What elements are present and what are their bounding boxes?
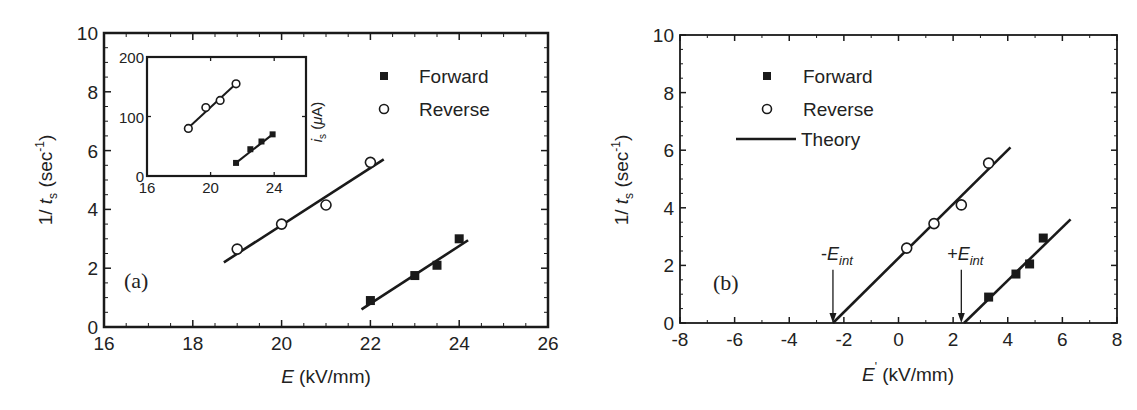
annotation-arrow-neg-eint: -Eint	[821, 244, 854, 323]
x-tick-label: -2	[835, 329, 852, 350]
y-tick-label: 6	[87, 141, 98, 162]
annotation-label: -Eint	[821, 244, 854, 268]
filled-square-marker	[410, 271, 419, 280]
x-axis-title: E (kV/mm)	[281, 366, 371, 387]
legend-label-reverse: Reverse	[803, 99, 874, 120]
filled-square-marker	[270, 131, 276, 137]
chart-panel-b: -8-6-4-20246802468101/ ts (sec-1)E' (kV/…	[609, 25, 1122, 385]
x-tick-label: -4	[781, 329, 798, 350]
open-circle-marker	[232, 80, 240, 88]
filled-square-marker	[763, 72, 771, 80]
y-axis-title: 1/ ts (sec-1)	[33, 135, 60, 226]
x-tick-label: 18	[182, 333, 203, 354]
legend: ForwardReverseTheory	[736, 66, 874, 150]
y-tick-label: 8	[87, 82, 98, 103]
figure: 16182022242602468101/ ts (sec-1)E (kV/mm…	[0, 0, 1137, 410]
y-tick-label: 10	[653, 25, 674, 46]
y-tick-label: 2	[87, 258, 98, 279]
inset-x-tick-label: 24	[266, 179, 283, 196]
legend-label-forward: Forward	[419, 66, 489, 87]
y-axis-title: 1/ ts (sec-1)	[609, 135, 636, 226]
inset-x-tick-label: 20	[202, 179, 219, 196]
open-circle-marker	[763, 105, 772, 114]
filled-square-marker	[247, 146, 253, 152]
inset-y-axis-title: is (μA)	[308, 102, 328, 143]
open-circle-marker	[232, 244, 242, 254]
inset-y-tick-label: 100	[119, 109, 144, 126]
x-tick-label: 2	[948, 329, 959, 350]
x-tick-label: 4	[1002, 329, 1013, 350]
open-circle-marker	[929, 219, 939, 229]
y-tick-label: 6	[663, 140, 674, 161]
filled-square-marker	[233, 160, 239, 166]
panel-label: (b)	[713, 270, 739, 295]
open-circle-marker	[277, 219, 287, 229]
x-tick-label: 26	[537, 333, 558, 354]
x-tick-label: -8	[672, 329, 689, 350]
open-circle-marker	[202, 104, 210, 112]
x-axis-title: E' (kV/mm)	[862, 360, 954, 385]
y-tick-label: 8	[663, 83, 674, 104]
inset-y-tick-label: 200	[119, 49, 144, 66]
filled-square-marker	[1011, 270, 1020, 279]
open-circle-marker	[956, 200, 966, 210]
y-tick-label: 2	[663, 255, 674, 276]
open-circle-marker	[365, 157, 375, 167]
plot-frame	[680, 35, 1117, 323]
open-circle-marker	[902, 243, 912, 253]
x-tick-label: 20	[271, 333, 292, 354]
y-tick-label: 4	[87, 199, 98, 220]
x-tick-label: 6	[1057, 329, 1068, 350]
open-circle-marker	[321, 200, 331, 210]
filled-square-marker	[366, 296, 375, 305]
filled-square-marker	[258, 138, 264, 144]
filled-square-marker	[455, 234, 464, 243]
x-tick-label: -6	[726, 329, 743, 350]
y-tick-label: 4	[663, 198, 674, 219]
filled-square-marker	[1039, 234, 1048, 243]
legend-label-theory: Theory	[801, 129, 861, 150]
x-tick-label: 24	[449, 333, 471, 354]
inset-frame	[147, 57, 306, 176]
y-tick-label: 10	[77, 23, 98, 44]
y-tick-label: 0	[663, 313, 674, 334]
filled-square-marker	[1025, 259, 1034, 268]
open-circle-marker	[984, 158, 994, 168]
chart-panel-a: 16182022242602468101/ ts (sec-1)E (kV/mm…	[33, 23, 559, 387]
legend: ForwardReverse	[380, 66, 490, 120]
x-tick-label: 8	[1112, 329, 1123, 350]
x-tick-label: 22	[360, 333, 381, 354]
annotation-arrow-pos-eint: +Eint	[947, 244, 985, 323]
theory-line	[833, 147, 1011, 323]
legend-label-forward: Forward	[803, 66, 873, 87]
filled-square-marker	[984, 293, 993, 302]
inset-chart: 1620240100200is (μA)	[119, 49, 328, 196]
filled-square-marker	[433, 261, 442, 270]
y-tick-label: 0	[87, 317, 98, 338]
open-circle-marker	[380, 105, 389, 114]
inset-y-tick-label: 0	[136, 168, 144, 185]
x-tick-label: 0	[893, 329, 904, 350]
panel-label: (a)	[124, 268, 148, 293]
filled-square-marker	[380, 72, 388, 80]
open-circle-marker	[185, 125, 193, 133]
open-circle-marker	[216, 97, 224, 105]
annotation-label: +Eint	[947, 244, 985, 268]
legend-label-reverse: Reverse	[419, 99, 490, 120]
